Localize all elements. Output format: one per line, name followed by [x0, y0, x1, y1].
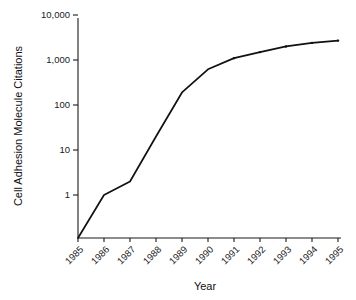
data-point-marker — [233, 57, 235, 59]
chart-figure: Cell Adhesion Molecule Citations Year 10… — [0, 0, 356, 300]
y-tick-label: 1,000 — [46, 54, 70, 65]
x-tick-label: 1994 — [297, 244, 320, 267]
x-tick-label: 1993 — [271, 244, 294, 267]
y-tick-label: 100 — [54, 99, 70, 110]
x-tick-label: 1992 — [245, 244, 268, 267]
data-point-marker — [285, 45, 287, 47]
x-tick-label: 1990 — [193, 244, 216, 267]
line-chart: Cell Adhesion Molecule Citations Year 10… — [0, 0, 356, 300]
x-tick-label: 1986 — [89, 244, 112, 267]
y-axis-title: Cell Adhesion Molecule Citations — [12, 45, 24, 206]
x-tick-label: 1989 — [167, 244, 190, 267]
y-tick-label: 10 — [59, 144, 70, 155]
series-line-citations — [78, 41, 338, 238]
y-tick-label: 10,000 — [41, 9, 70, 20]
x-tick-label: 1985 — [63, 244, 86, 267]
x-tick-label: 1991 — [219, 244, 242, 267]
x-tick-label: 1988 — [141, 244, 164, 267]
x-axis-title: Year — [194, 280, 217, 292]
x-tick-label: 1987 — [115, 244, 138, 267]
y-tick-label: 1 — [65, 189, 70, 200]
x-axis-ticks: 1985198619871988198919901991199219931994… — [63, 238, 346, 266]
data-point-marker — [311, 42, 313, 44]
y-axis-ticks: 10,0001,000100101 — [41, 9, 78, 200]
data-point-marker — [337, 39, 339, 41]
x-tick-label: 1995 — [323, 244, 346, 267]
data-point-marker — [259, 51, 261, 53]
